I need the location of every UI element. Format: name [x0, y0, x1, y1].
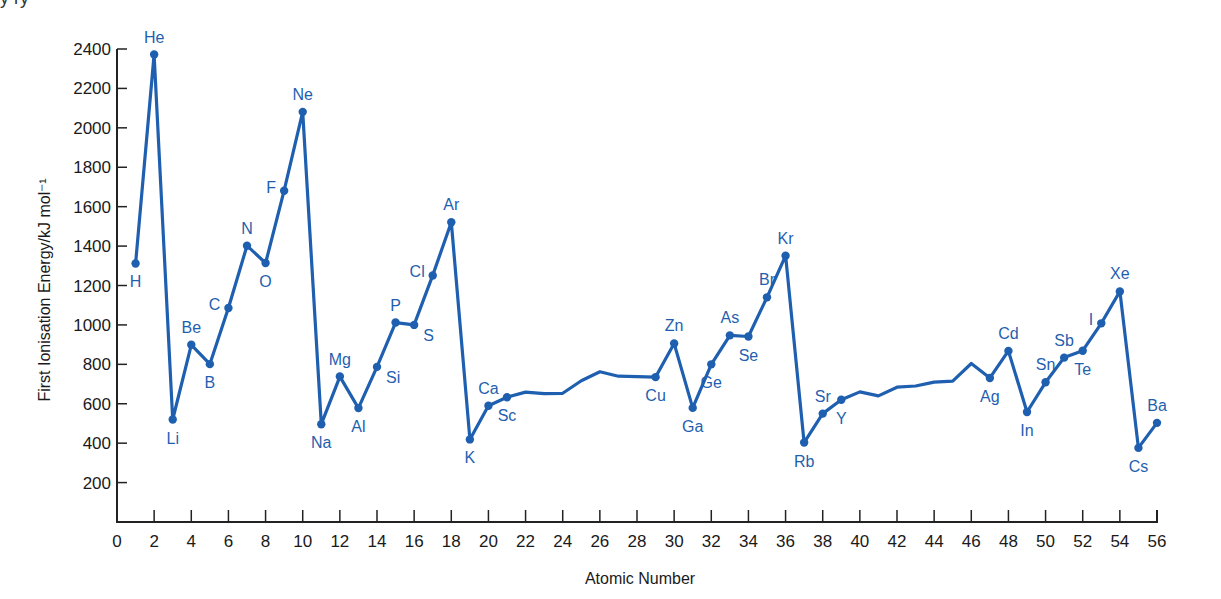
- point-label-mg: Mg: [329, 351, 351, 368]
- x-axis-title: Atomic Number: [585, 570, 696, 587]
- point-label-f: F: [266, 179, 276, 196]
- data-point-o: [261, 259, 269, 267]
- point-label-cd: Cd: [998, 325, 1018, 342]
- point-label-cu: Cu: [645, 387, 665, 404]
- data-point-s: [410, 321, 418, 329]
- point-label-be: Be: [181, 319, 201, 336]
- point-label-se: Se: [739, 347, 759, 364]
- y-tick-label: 600: [83, 395, 111, 414]
- y-tick-label: 800: [83, 355, 111, 374]
- point-label-si: Si: [386, 369, 400, 386]
- x-tick-label: 38: [813, 532, 832, 551]
- point-label-sn: Sn: [1036, 356, 1056, 373]
- point-label-h: H: [130, 273, 142, 290]
- y-tick-label: 200: [83, 474, 111, 493]
- x-tick-label: 24: [553, 532, 572, 551]
- data-point-si: [373, 363, 381, 371]
- x-tick-label: 12: [330, 532, 349, 551]
- data-point-na: [317, 420, 325, 428]
- x-tick-label: 2: [149, 532, 158, 551]
- point-label-li: Li: [166, 430, 178, 447]
- point-label-he: He: [144, 29, 165, 46]
- point-label-y: Y: [836, 410, 847, 427]
- data-point-he: [150, 50, 158, 58]
- point-label-sc: Sc: [498, 407, 517, 424]
- data-point-f: [280, 187, 288, 195]
- point-label-ge: Ge: [701, 374, 722, 391]
- x-tick-label: 28: [628, 532, 647, 551]
- data-point-br: [763, 293, 771, 301]
- point-label-b: B: [205, 374, 216, 391]
- point-label-in: In: [1020, 422, 1033, 439]
- data-point-zn: [670, 339, 678, 347]
- x-tick-label: 36: [776, 532, 795, 551]
- data-point-c: [224, 304, 232, 312]
- point-label-sb: Sb: [1054, 332, 1074, 349]
- point-label-al: Al: [351, 418, 365, 435]
- y-tick-label: 2200: [73, 79, 111, 98]
- point-label-p: P: [390, 297, 401, 314]
- data-point-ar: [447, 218, 455, 226]
- point-label-i: I: [1089, 311, 1093, 328]
- point-label-xe: Xe: [1110, 265, 1130, 282]
- data-point-i: [1097, 319, 1105, 327]
- y-tick-label: 400: [83, 434, 111, 453]
- data-point-xe: [1116, 287, 1124, 295]
- x-tick-label: 22: [516, 532, 535, 551]
- point-label-cs: Cs: [1129, 458, 1149, 475]
- data-point-p: [391, 318, 399, 326]
- axis-frame: [117, 49, 1157, 522]
- x-tick-label: 42: [888, 532, 907, 551]
- x-tick-label: 30: [665, 532, 684, 551]
- point-label-ne: Ne: [292, 86, 313, 103]
- point-label-ca: Ca: [478, 380, 499, 397]
- data-point-in: [1023, 408, 1031, 416]
- point-label-kr: Kr: [778, 230, 795, 247]
- y-tick-label: 2000: [73, 119, 111, 138]
- x-tick-label: 50: [1036, 532, 1055, 551]
- point-label-na: Na: [311, 434, 332, 451]
- data-point-as: [726, 331, 734, 339]
- data-point-sc: [503, 393, 511, 401]
- x-tick-label: 8: [261, 532, 270, 551]
- data-point-kr: [781, 252, 789, 260]
- x-tick-label: 44: [925, 532, 944, 551]
- point-label-ar: Ar: [443, 196, 460, 213]
- point-label-te: Te: [1074, 361, 1091, 378]
- data-point-ne: [299, 108, 307, 116]
- data-series: HHeLiBeBCNOFNeNaMgAlSiPSClArKCaScCuZnGaG…: [130, 29, 1167, 475]
- x-tick-label: 4: [187, 532, 196, 551]
- x-axis: 0246810121416182022242628303234363840424…: [112, 49, 1166, 551]
- x-tick-label: 0: [112, 532, 121, 551]
- point-label-s: S: [423, 327, 434, 344]
- data-point-ga: [689, 404, 697, 412]
- data-point-cu: [651, 373, 659, 381]
- point-label-rb: Rb: [794, 453, 815, 470]
- x-tick-label: 40: [850, 532, 869, 551]
- x-tick-label: 46: [962, 532, 981, 551]
- x-tick-label: 10: [293, 532, 312, 551]
- data-point-h: [131, 259, 139, 267]
- point-label-o: O: [259, 273, 271, 290]
- data-point-sb: [1060, 353, 1068, 361]
- y-tick-label: 1000: [73, 316, 111, 335]
- y-axis-title: First Ionisation Energy/kJ mol⁻¹: [36, 178, 53, 401]
- x-tick-label: 16: [405, 532, 424, 551]
- data-point-mg: [336, 372, 344, 380]
- x-tick-label: 26: [590, 532, 609, 551]
- point-label-br: Br: [759, 271, 776, 288]
- data-point-se: [744, 332, 752, 340]
- point-label-ga: Ga: [682, 418, 703, 435]
- y-tick-label: 2400: [73, 40, 111, 59]
- x-tick-label: 32: [702, 532, 721, 551]
- data-point-n: [243, 241, 251, 249]
- x-tick-label: 18: [442, 532, 461, 551]
- point-label-ag: Ag: [980, 388, 1000, 405]
- point-label-k: K: [465, 449, 476, 466]
- y-tick-label: 1600: [73, 198, 111, 217]
- x-tick-label: 48: [999, 532, 1018, 551]
- x-tick-label: 56: [1148, 532, 1167, 551]
- data-point-cl: [429, 271, 437, 279]
- x-tick-label: 52: [1073, 532, 1092, 551]
- data-point-sr: [819, 409, 827, 417]
